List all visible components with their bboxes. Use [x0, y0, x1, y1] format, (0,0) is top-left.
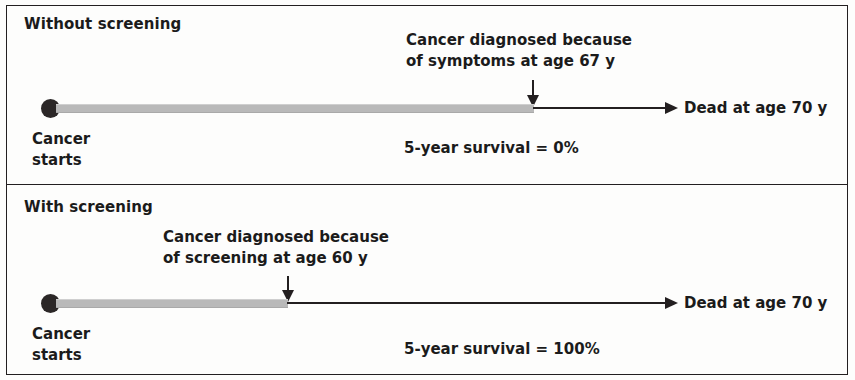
- panel-without-screening: Without screening Cancer diagnosed becau…: [0, 0, 855, 184]
- cancer-start-label-line-1: Cancer: [32, 129, 90, 150]
- timeline-arrow-icon: [665, 297, 678, 309]
- diagnosis-annotation-line-1: Cancer diagnosed because: [163, 227, 389, 248]
- cancer-start-label-line-1: Cancer: [32, 324, 90, 345]
- cancer-start-label-with-screening: Cancer starts: [32, 324, 90, 366]
- panel-title-with-screening: With screening: [24, 198, 153, 216]
- panel-title-without-screening: Without screening: [24, 15, 181, 33]
- survival-label-without-screening: 5-year survival = 0%: [404, 139, 579, 157]
- survival-label-with-screening: 5-year survival = 100%: [404, 340, 600, 358]
- endpoint-label-without-screening: Dead at age 70 y: [684, 99, 827, 117]
- diagnosis-annotation-line-2: of screening at age 60 y: [163, 248, 389, 269]
- panel-with-screening: With screening Cancer diagnosed because …: [0, 184, 855, 380]
- timeline-arrow-icon: [665, 102, 678, 114]
- cancer-start-label-without-screening: Cancer starts: [32, 129, 90, 171]
- diagnosis-annotation-line-1: Cancer diagnosed because: [406, 30, 632, 51]
- cancer-start-label-line-2: starts: [32, 345, 90, 366]
- cancer-start-label-line-2: starts: [32, 150, 90, 171]
- clinical-phase-line: [287, 302, 667, 304]
- lead-time-bias-figure: Without screening Cancer diagnosed becau…: [0, 0, 855, 380]
- diagnosis-annotation-without-screening: Cancer diagnosed because of symptoms at …: [406, 30, 632, 72]
- clinical-phase-line: [533, 107, 667, 109]
- endpoint-label-with-screening: Dead at age 70 y: [684, 294, 827, 312]
- diagnosis-annotation-line-2: of symptoms at age 67 y: [406, 51, 632, 72]
- diagnosis-annotation-with-screening: Cancer diagnosed because of screening at…: [163, 227, 389, 269]
- preclinical-phase-bar: [56, 104, 534, 113]
- preclinical-phase-bar: [56, 299, 288, 308]
